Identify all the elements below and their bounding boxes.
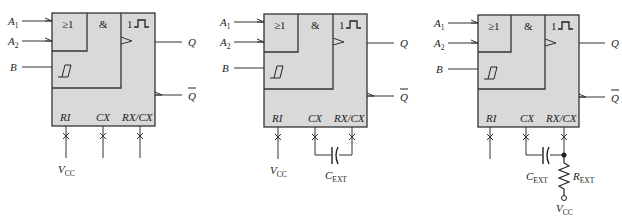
output-q-label: Q — [611, 37, 619, 49]
pin-rxcx-label: RX/CX — [545, 112, 578, 124]
input-b-label: B — [222, 62, 229, 74]
resistor-icon — [559, 155, 569, 195]
monostable-diagram-c: ≥1 & 1 A1 A2 B Q Q RI CX RX/CX CEXT REXT… — [433, 15, 619, 216]
pin-ri-label: RI — [271, 112, 284, 124]
input-b-label: B — [10, 61, 17, 73]
output-q-label: Q — [188, 36, 196, 48]
vcc-label: VCC — [58, 163, 75, 178]
mono-label: 1 — [339, 19, 345, 31]
mono-label: 1 — [127, 18, 133, 30]
input-a2-label: A2 — [7, 35, 19, 50]
pin-rxcx-label: RX/CX — [121, 111, 154, 123]
output-qbar-label: Q — [611, 92, 619, 104]
output-q-label: Q — [400, 37, 408, 49]
vcc-label: VCC — [270, 164, 287, 179]
input-a2-label: A2 — [219, 36, 231, 51]
or-gate-label: ≥1 — [488, 20, 500, 32]
vcc-label: VCC — [556, 202, 573, 216]
pin-ri-label: RI — [59, 111, 72, 123]
vcc-terminal-icon — [562, 196, 567, 201]
mono-label: 1 — [551, 20, 557, 32]
pin-cx-label: CX — [96, 111, 111, 123]
monostable-diagram-b: ≥1 & 1 A1 A2 B Q Q RI CX RX/CX VCC CEXT — [219, 14, 408, 184]
capacitor-icon — [543, 147, 549, 164]
and-gate-label: & — [99, 18, 108, 30]
input-a1-label: A1 — [7, 15, 19, 30]
and-gate-label: & — [311, 19, 320, 31]
input-a1-label: A1 — [219, 16, 231, 31]
output-qbar-label: Q — [188, 90, 196, 102]
pin-ri-label: RI — [485, 112, 498, 124]
rext-label: REXT — [572, 170, 595, 185]
input-a2-label: A2 — [433, 37, 445, 52]
monostable-diagram-a: ≥1 & 1 A1 A2 B Q Q RI CX RX/CX VCC — [7, 13, 196, 178]
capacitor-icon — [332, 147, 338, 164]
and-gate-label: & — [524, 20, 533, 32]
input-b-label: B — [436, 63, 443, 75]
or-gate-label: ≥1 — [274, 19, 286, 31]
output-qbar-label: Q — [400, 91, 408, 103]
cext-label: CEXT — [526, 170, 548, 185]
pin-cross-icon — [487, 134, 567, 140]
or-gate-label: ≥1 — [62, 18, 74, 30]
pin-rxcx-label: RX/CX — [333, 112, 366, 124]
cext-label: CEXT — [325, 169, 347, 184]
input-a1-label: A1 — [433, 17, 445, 32]
pin-cx-label: CX — [520, 112, 535, 124]
pin-cx-label: CX — [308, 112, 323, 124]
